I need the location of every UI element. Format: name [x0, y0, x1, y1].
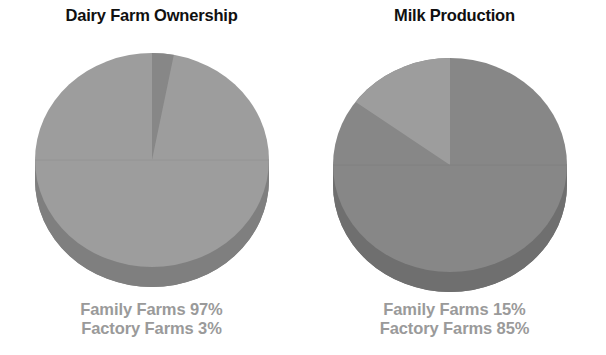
pie-chart-left-svg	[0, 40, 303, 300]
pie-right-top-face	[333, 52, 567, 272]
legend-item-family-farms-right: Family Farms 15%	[303, 300, 606, 319]
chart-panel-dairy-farm-ownership: Dairy Farm Ownership	[0, 0, 303, 355]
legend-right: Family Farms 15% Factory Farms 85%	[303, 300, 606, 339]
chart-title-right: Milk Production	[303, 6, 606, 25]
pie-left-top-face	[35, 47, 269, 267]
chart-title-left: Dairy Farm Ownership	[0, 6, 303, 25]
chart-panel-milk-production: Milk Production	[303, 0, 606, 355]
legend-item-factory-farms-right: Factory Farms 85%	[303, 319, 606, 338]
legend-item-factory-farms-left: Factory Farms 3%	[0, 319, 303, 338]
legend-item-family-farms-left: Family Farms 97%	[0, 300, 303, 319]
legend-left: Family Farms 97% Factory Farms 3%	[0, 300, 303, 339]
pie-chart-left	[0, 40, 303, 300]
pie-chart-right-svg	[303, 40, 606, 300]
pie-chart-comparison-figure: Dairy Farm Ownership	[0, 0, 606, 355]
pie-chart-right	[303, 40, 606, 300]
